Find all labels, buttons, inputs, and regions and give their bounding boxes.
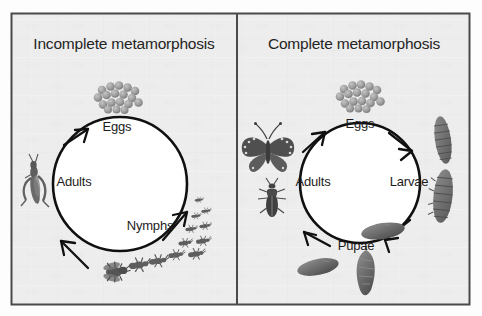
stage-label-larvae: Larvae xyxy=(390,174,429,189)
metamorphosis-figure: Incomplete metamorphosis xyxy=(0,0,482,316)
stage-label-adults-incomplete: Adults xyxy=(57,174,93,189)
stage-label-eggs-incomplete: Eggs xyxy=(103,119,133,134)
stage-label-pupae: Pupae xyxy=(338,238,375,253)
panel-title-complete: Complete metamorphosis xyxy=(268,35,441,52)
stage-label-adults-complete: Adults xyxy=(296,174,332,189)
stage-label-eggs-complete: Eggs xyxy=(346,116,376,131)
stage-label-nymphs: Nymphs xyxy=(127,218,174,233)
panel-title-incomplete: Incomplete metamorphosis xyxy=(33,35,215,52)
